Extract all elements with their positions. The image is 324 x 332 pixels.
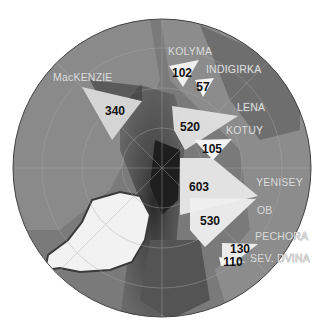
label-mackenzie: MacKENZIE [53,71,113,83]
label-sev-dvina: SEV. DVINA [250,252,310,264]
value-ob: 530 [200,214,220,228]
label-ob: OB [257,204,273,216]
arctic-map: 340 102 57 520 105 603 530 130 110 MacKE… [0,0,324,332]
graticule [13,19,311,317]
value-yenisey: 603 [189,180,209,194]
value-kotuy: 105 [202,142,222,156]
value-mackenzie: 340 [105,104,125,118]
label-kotuy: KOTUY [226,124,263,136]
map-disc [10,15,320,320]
label-yenisey: YENISEY [256,176,303,188]
value-pechora: 130 [230,242,250,256]
label-kolyma: KOLYMA [168,45,212,57]
value-lena: 520 [180,120,200,134]
value-sev-dvina: 110 [223,255,243,269]
label-indigirka: INDIGIRKA [206,63,261,75]
label-pechora: PECHORA [255,230,308,242]
value-kolyma: 102 [172,66,192,80]
value-indigirka: 57 [196,80,210,94]
label-lena: LENA [237,101,265,113]
